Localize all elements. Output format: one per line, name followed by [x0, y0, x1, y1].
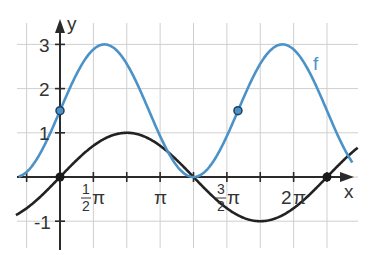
svg-text:2: 2: [82, 198, 90, 214]
point-sine: [323, 173, 332, 182]
point-sine: [56, 173, 65, 182]
point-f: [234, 107, 242, 115]
function-plot: 3 2 1 -1 y x 1 2 π π 3 2 π 2 π f: [0, 0, 382, 255]
svg-text:π: π: [92, 187, 105, 208]
svg-text:3: 3: [217, 181, 225, 197]
y-tick-label-minus-1: -1: [34, 212, 51, 233]
svg-text:π: π: [227, 187, 240, 208]
grid: [17, 23, 358, 248]
svg-text:2: 2: [217, 198, 225, 214]
x-tick-label-two-pi: 2 π: [281, 187, 306, 208]
x-tick-label-pi: π: [154, 187, 167, 208]
y-axis-label: y: [67, 13, 77, 34]
axes: [17, 19, 354, 250]
svg-text:1: 1: [82, 181, 90, 197]
svg-text:2: 2: [281, 187, 292, 208]
y-tick-label-3: 3: [39, 35, 50, 56]
x-axis-label: x: [344, 181, 354, 202]
point-f: [56, 107, 64, 115]
curve-f: [19, 44, 353, 177]
curve-f-label: f: [313, 53, 319, 74]
y-tick-label-1: 1: [39, 123, 50, 144]
y-tick-label-2: 2: [39, 79, 50, 100]
svg-text:π: π: [293, 187, 306, 208]
